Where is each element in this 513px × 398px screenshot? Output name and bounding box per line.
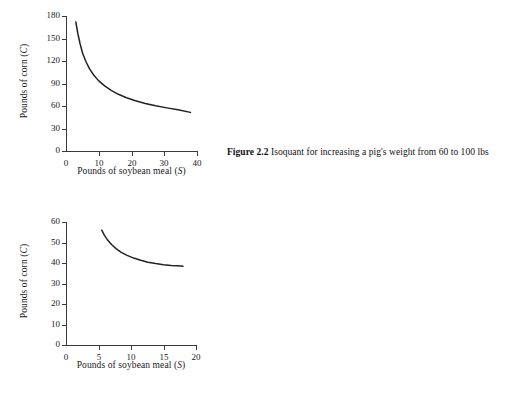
isoquant-curve-figure-2-2 xyxy=(0,0,225,199)
isoquant-path xyxy=(76,22,191,112)
figure-number: Figure 2.2 xyxy=(227,147,269,157)
plot-area-figure-2-2: Pounds of corn (C) Pounds of soybean mea… xyxy=(0,0,225,199)
isoquant-path xyxy=(102,230,183,266)
figure-caption-2-2: Figure 2.2 Isoquant for increasing a pig… xyxy=(227,146,511,159)
isoquant-curve-figure-2-3 xyxy=(0,199,225,398)
figure-caption-text: Isoquant for increasing a pig's weight f… xyxy=(271,147,489,157)
plot-area-figure-2-3: Pounds of corn (C) Pounds of soybean mea… xyxy=(0,199,225,398)
figure-2-3: Pounds of corn (C) Pounds of soybean mea… xyxy=(0,199,513,398)
figure-2-2: Pounds of corn (C) Pounds of soybean mea… xyxy=(0,0,513,199)
